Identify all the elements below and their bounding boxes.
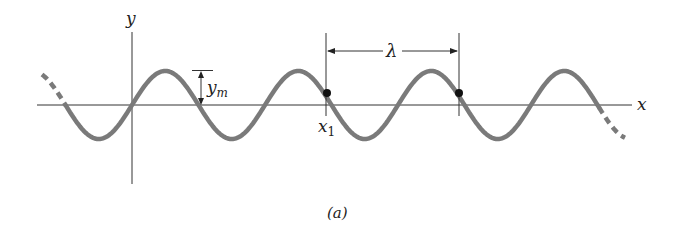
diagram-canvas: y x ym λ x1 (a): [0, 0, 675, 234]
figure-caption: (a): [327, 204, 348, 222]
amplitude-label: ym: [206, 77, 228, 100]
y-axis-label: y: [125, 8, 136, 28]
wave-dashed-right: [599, 107, 625, 137]
x1-label: x1: [318, 116, 335, 139]
point-x1: [323, 89, 331, 97]
arrowhead-up-icon: [198, 71, 204, 78]
x-axis-label: x: [637, 94, 647, 114]
arrowhead-right-icon: [450, 48, 458, 54]
wave-dashed-left: [42, 75, 66, 106]
wave-diagram: y x ym λ x1 (a): [0, 0, 675, 234]
wavelength-label: λ: [385, 40, 397, 61]
point-x1-plus-lambda: [455, 89, 463, 97]
arrowhead-left-icon: [327, 48, 335, 54]
